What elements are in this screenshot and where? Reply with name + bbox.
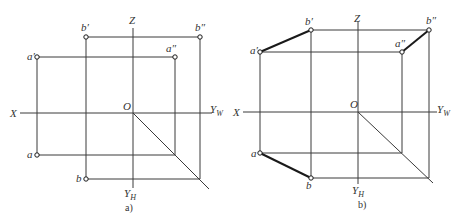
label-b-prime: b′ (305, 15, 314, 27)
figure-a: Z X O YW YH b′ b″ a′ a″ a b a) (9, 14, 224, 214)
point-b-dprime (427, 28, 431, 32)
segment-a-dprime-b-dprime (402, 30, 429, 52)
label-b: b (306, 179, 312, 191)
label-x: X (232, 106, 241, 118)
label-b-dprime: b″ (195, 21, 206, 33)
label-origin: O (350, 98, 358, 110)
point-a-dprime (173, 55, 177, 59)
label-a-prime: a′ (250, 44, 259, 56)
caption-b: b) (358, 199, 366, 211)
point-a-prime (258, 50, 262, 54)
label-x: X (9, 107, 18, 119)
label-yw: YW (210, 103, 224, 118)
point-b-prime (84, 35, 88, 39)
label-a: a (251, 147, 257, 159)
segment-a-b (260, 153, 311, 178)
label-a: a (27, 148, 33, 160)
point-a (258, 151, 262, 155)
point-a (35, 153, 39, 157)
label-yw: YW (437, 103, 451, 118)
figure-b: Z X O YW YH b′ b″ a′ a″ a b b) (232, 12, 451, 211)
point-b-prime (309, 28, 313, 32)
diagonal-45-line (133, 113, 209, 189)
label-a-dprime: a″ (395, 37, 406, 49)
point-a-dprime (400, 50, 404, 54)
point-b-dprime (198, 35, 202, 39)
label-b-prime: b′ (81, 21, 90, 33)
diagonal-45-line (358, 112, 433, 183)
label-a-dprime: a″ (166, 42, 177, 54)
point-a-prime (35, 55, 39, 59)
label-yh: YH (352, 184, 365, 199)
segment-a-prime-b-prime (260, 30, 311, 52)
caption-a: a) (125, 202, 133, 214)
label-z: Z (354, 12, 361, 24)
label-b-dprime: b″ (426, 14, 437, 26)
label-z: Z (129, 14, 136, 26)
point-b (84, 177, 88, 181)
label-yh: YH (124, 187, 137, 202)
label-b: b (76, 172, 82, 184)
label-a-prime: a′ (27, 50, 36, 62)
projection-diagrams: Z X O YW YH b′ b″ a′ a″ a b a) (0, 0, 461, 224)
label-origin: O (123, 100, 131, 112)
